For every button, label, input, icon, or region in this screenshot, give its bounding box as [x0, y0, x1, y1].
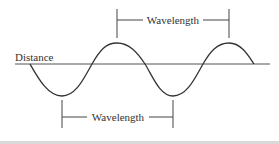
- bottom-divider: [0, 141, 279, 144]
- bottom-wavelength-label: Wavelength: [92, 111, 145, 123]
- distance-label: Distance: [15, 51, 54, 63]
- top-wavelength-label: Wavelength: [147, 14, 200, 26]
- wave-diagram: Distance Wavelength Wavelength: [0, 0, 279, 144]
- sine-wave: [30, 43, 254, 96]
- bottom-wavelength-bracket: Wavelength: [62, 100, 173, 128]
- top-wavelength-bracket: Wavelength: [117, 9, 229, 38]
